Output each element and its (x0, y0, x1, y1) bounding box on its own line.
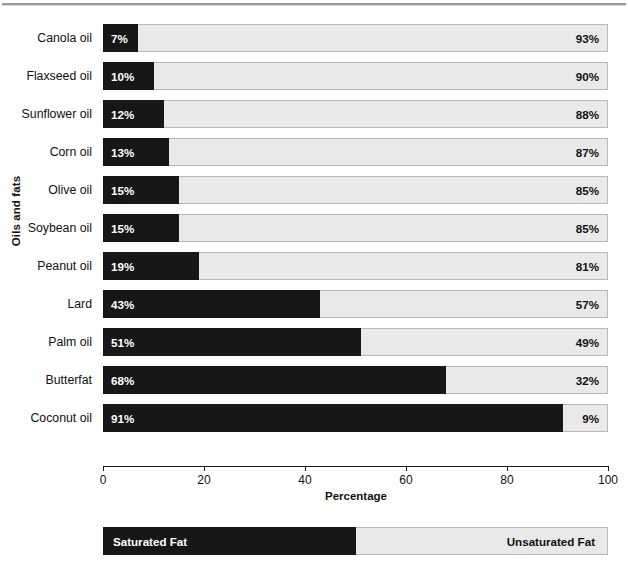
bar-segment-unsaturated: 88% (164, 100, 608, 128)
category-label-column: Canola oilFlaxseed oilSunflower oilCorn … (0, 24, 98, 442)
bar-segment-saturated: 7% (103, 24, 138, 52)
x-axis-tick (305, 466, 306, 471)
bar-segment-unsaturated: 90% (154, 62, 609, 90)
bar-segment-unsaturated: 85% (179, 176, 608, 204)
bar-row: 15%85% (103, 176, 608, 204)
category-label: Soybean oil (0, 214, 98, 242)
x-axis-line (103, 466, 609, 467)
category-label: Butterfat (0, 366, 98, 394)
bar-segment-saturated: 10% (103, 62, 154, 90)
bar-segment-unsaturated: 81% (199, 252, 608, 280)
category-label: Corn oil (0, 138, 98, 166)
bar-segment-saturated: 51% (103, 328, 361, 356)
bar-segment-saturated: 13% (103, 138, 169, 166)
category-label: Peanut oil (0, 252, 98, 280)
bar-segment-unsaturated: 85% (179, 214, 608, 242)
bar-row: 7%93% (103, 24, 608, 52)
bar-segment-saturated: 91% (103, 404, 563, 432)
x-axis-tick-label: 20 (197, 473, 210, 487)
bar-segment-unsaturated: 49% (361, 328, 608, 356)
stacked-bar-chart: Oils and fats Canola oilFlaxseed oilSunf… (0, 0, 628, 566)
legend-item-saturated-fat: Saturated Fat (103, 527, 356, 555)
bar-row: 43%57% (103, 290, 608, 318)
category-label: Coconut oil (0, 404, 98, 432)
bar-segment-saturated: 68% (103, 366, 446, 394)
x-axis-tick-label: 0 (100, 473, 107, 487)
bar-segment-unsaturated: 9% (563, 404, 608, 432)
x-axis-tick-label: 40 (298, 473, 311, 487)
bar-segment-unsaturated: 93% (138, 24, 608, 52)
x-axis-tick (204, 466, 205, 471)
plot-area: 7%93%10%90%12%88%13%87%15%85%15%85%19%81… (103, 24, 608, 442)
bar-segment-unsaturated: 87% (169, 138, 608, 166)
x-axis-tick-label: 100 (598, 473, 618, 487)
bar-row: 12%88% (103, 100, 608, 128)
category-label: Sunflower oil (0, 100, 98, 128)
bar-segment-saturated: 12% (103, 100, 164, 128)
category-label: Lard (0, 290, 98, 318)
bar-row: 13%87% (103, 138, 608, 166)
x-axis-tick (608, 466, 609, 471)
category-label: Canola oil (0, 24, 98, 52)
category-label: Palm oil (0, 328, 98, 356)
legend-item-unsaturated-fat: Unsaturated Fat (356, 527, 609, 555)
category-label: Flaxseed oil (0, 62, 98, 90)
x-axis-tick (507, 466, 508, 471)
bar-row: 10%90% (103, 62, 608, 90)
x-axis-tick (406, 466, 407, 471)
x-axis-title: Percentage (103, 490, 609, 502)
chart-legend: Saturated Fat Unsaturated Fat (103, 527, 608, 555)
bar-segment-unsaturated: 57% (320, 290, 608, 318)
x-axis-tick (103, 466, 104, 471)
bar-row: 15%85% (103, 214, 608, 242)
bar-segment-saturated: 43% (103, 290, 320, 318)
x-axis-tick-label: 80 (500, 473, 513, 487)
bar-row: 68%32% (103, 366, 608, 394)
bar-segment-unsaturated: 32% (446, 366, 608, 394)
bar-row: 91%9% (103, 404, 608, 432)
bar-segment-saturated: 15% (103, 176, 179, 204)
bar-row: 19%81% (103, 252, 608, 280)
bar-segment-saturated: 15% (103, 214, 179, 242)
x-axis-tick-label: 60 (399, 473, 412, 487)
category-label: Olive oil (0, 176, 98, 204)
bar-segment-saturated: 19% (103, 252, 199, 280)
bar-row: 51%49% (103, 328, 608, 356)
